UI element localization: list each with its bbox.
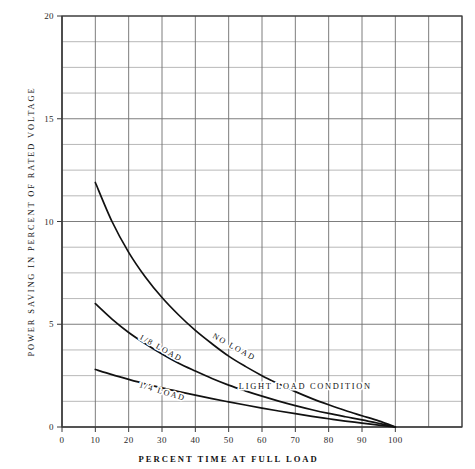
x-tick-label: 70	[290, 435, 300, 445]
curve-1-8-load	[95, 304, 395, 427]
x-tick-label: 10	[90, 435, 100, 445]
y-tick-label: 15	[44, 114, 54, 124]
x-tick-label: 0	[60, 435, 65, 445]
x-tick-label: 100	[388, 435, 403, 445]
x-tick-label: 20	[124, 435, 134, 445]
y-tick-label: 0	[49, 422, 54, 432]
x-tick-label: 60	[257, 435, 267, 445]
x-tick-label: 80	[324, 435, 334, 445]
x-axis-title: PERCENT TIME AT FULL LOAD	[139, 454, 319, 464]
grid-major-layer	[62, 16, 462, 427]
chart-text-labels-layer: NO LOADNO LOAD1/8 LOAD1/8 LOAD1/4 LOAD1/…	[27, 87, 372, 464]
y-tick-label: 20	[44, 11, 54, 21]
annotation-light-load-condition: LIGHT LOAD CONDITION	[239, 382, 372, 391]
curve-label-1-8-load: 1/8 LOAD	[138, 333, 184, 364]
y-axis-title: POWER SAVING IN PERCENT OF RATED VOLTAGE	[27, 87, 36, 357]
x-tick-label: 40	[190, 435, 200, 445]
y-tick-label: 5	[49, 319, 54, 329]
curve-label-no-load: NO LOAD	[211, 331, 257, 362]
x-tick-label: 90	[357, 435, 367, 445]
x-tick-label: 30	[157, 435, 167, 445]
axis-ticks-layer: 051015200102030405060708090100	[44, 11, 403, 445]
chart-container: 051015200102030405060708090100 NO LOADNO…	[0, 0, 475, 469]
x-tick-label: 50	[224, 435, 234, 445]
y-tick-label: 10	[44, 217, 54, 227]
power-saving-line-chart: 051015200102030405060708090100 NO LOADNO…	[0, 0, 475, 469]
